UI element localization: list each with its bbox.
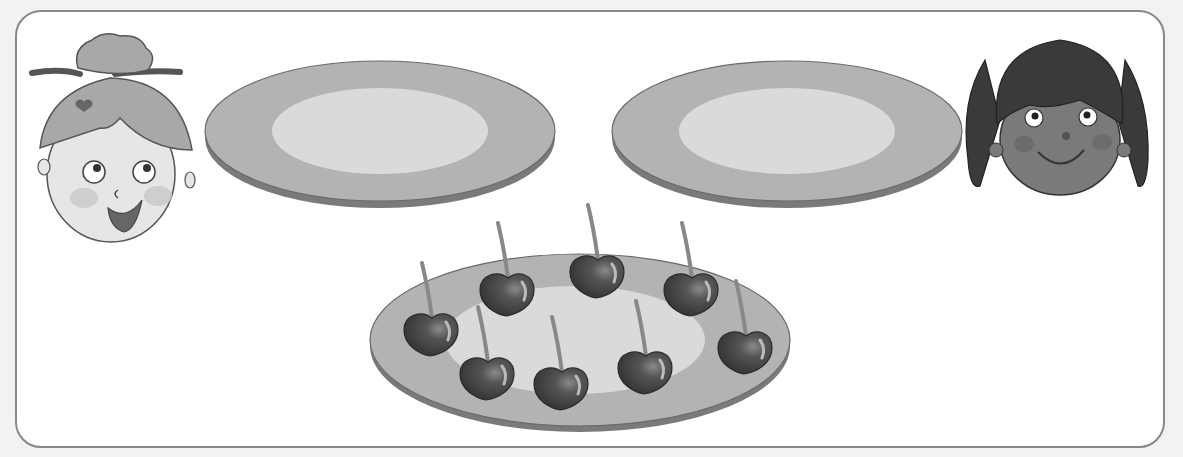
plate-cherries: [370, 205, 790, 432]
cherry-icon: [570, 205, 624, 298]
plate-right: [612, 61, 962, 208]
plate-left: [205, 61, 555, 208]
girl-right-avatar: [966, 40, 1148, 195]
scene: [0, 0, 1183, 457]
girl-left-avatar: [32, 34, 195, 242]
